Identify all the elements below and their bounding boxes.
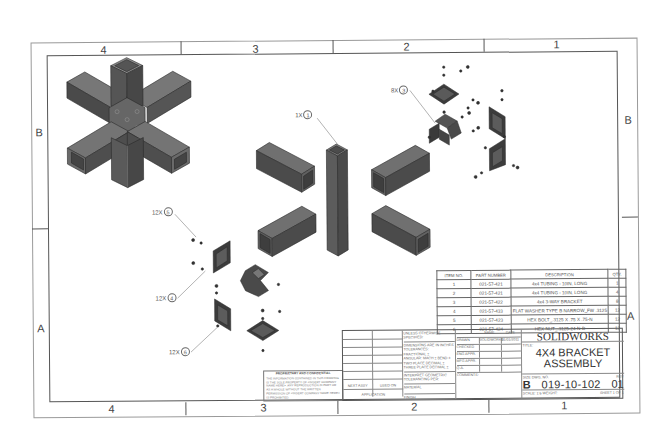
- bom-item-no: 5: [437, 315, 471, 324]
- proprietary-notice: PROPRIETARY AND CONFIDENTIAL THE INFORMA…: [263, 370, 343, 402]
- tb-title-cell: TITLE: 4X4 BRACKET ASSEMBLY: [522, 342, 624, 375]
- bom-item-no: 2: [437, 288, 471, 297]
- tb-qa-label: Q.A.: [457, 365, 479, 371]
- tb-empty: [478, 344, 500, 350]
- drawing-number: 019-10-102: [541, 379, 600, 389]
- tb-comments-label: COMMENTS:: [457, 371, 521, 377]
- bom-part-number: 021-57-433: [471, 306, 511, 315]
- bom-qty: 8: [608, 296, 626, 305]
- bom-qty: 1: [608, 278, 626, 287]
- tb-dwg-cell: SIZE DWG. NO. REV B 019-10-102 01: [522, 374, 624, 391]
- drawing-sheet: 4 3 2 1 4 3 2 1 B A B A: [0, 0, 671, 441]
- bill-of-materials: ITEM NO. PART NUMBER DESCRIPTION QTY. 10…: [436, 269, 627, 334]
- callout-item-1[interactable]: 1X1: [295, 110, 312, 119]
- tb-empty: [479, 358, 501, 364]
- drawing-title-line2: ASSEMBLY: [523, 358, 624, 370]
- bom-item-no: 3: [437, 297, 471, 306]
- revision: 01: [611, 379, 623, 389]
- bom-part-number: 021-57-421: [471, 279, 511, 288]
- bom-header-part: PART NUMBER: [471, 270, 511, 279]
- bom-part-number: 021-57-421: [471, 288, 511, 297]
- tb-sheet: SHEET 1 OF 1: [600, 390, 624, 397]
- tb-drawn-name: SOLIDWORKS: [478, 337, 500, 343]
- proprietary-text: THE INFORMATION CONTAINED IN THIS DRAWIN…: [266, 377, 340, 400]
- tb-application-label: APPLICATION: [343, 388, 403, 399]
- tb-ang-label: ANGULAR: MACH ± BEND ±: [404, 356, 455, 361]
- tb-tolerances: UNLESS OTHERWISE SPECIFIED: DIMENSIONS A…: [403, 330, 457, 399]
- tb-signoff: NAME DATE DRAWN SOLIDWORKS 01/01/2011 CH…: [456, 330, 523, 400]
- bom-item-no: 1: [437, 279, 471, 288]
- exploded-tubes: [256, 141, 430, 256]
- tb-interpret-label: INTERPRET GEOMETRIC TOLERANCING PER:: [404, 373, 455, 382]
- tb-checked-row: CHECKED: [456, 343, 520, 351]
- tb-empty: [500, 344, 520, 350]
- title-block: NEXT ASSY USED ON APPLICATION UNLESS OTH…: [342, 328, 624, 401]
- tb-checked-label: CHECKED: [456, 344, 478, 350]
- tb-scale: SCALE: 1:6: [523, 391, 542, 395]
- tb-empty: [501, 365, 521, 371]
- tb-empty: [500, 351, 520, 357]
- bom-part-number: 021-57-422: [471, 297, 511, 306]
- tb-mfg-label: MFG APPR.: [457, 358, 479, 364]
- tb-spacer: [456, 330, 478, 336]
- callout-item-3[interactable]: 8X3: [391, 85, 408, 94]
- tb-qa-row: Q.A.: [457, 364, 521, 372]
- bom-qty: 12: [608, 305, 626, 314]
- tb-finish-label: FINISH: [404, 395, 455, 399]
- tb-unless-label: UNLESS OTHERWISE SPECIFIED:: [403, 331, 454, 340]
- tb-weight: WEIGHT:: [543, 391, 558, 395]
- bom-item-no: 4: [437, 306, 471, 315]
- tb-eng-row: ENG APPR.: [456, 350, 520, 358]
- tb-drawn-date: 01/01/2011: [500, 337, 520, 343]
- balloon-item-3: 3: [399, 85, 408, 94]
- bom-header-item: ITEM NO.: [437, 270, 471, 279]
- sheet-size: B: [523, 379, 531, 389]
- tb-drawn-label: DRAWN: [456, 337, 478, 343]
- bom-header-qty: QTY.: [608, 269, 626, 278]
- tb-drawn-row: DRAWN SOLIDWORKS 01/01/2011: [456, 336, 520, 344]
- tb-empty: [478, 351, 500, 357]
- tb-dwg-values: B 019-10-102 01: [523, 379, 624, 390]
- tb-eng-label: ENG APPR.: [456, 351, 478, 357]
- tb-empty: [479, 365, 501, 371]
- exploded-hardware-right: [428, 65, 520, 179]
- balloon-item-4: 4: [167, 293, 176, 302]
- tb-date-col: DATE: [500, 330, 520, 336]
- callout-item-5[interactable]: 12X5: [152, 207, 173, 216]
- assembled-view: [67, 57, 192, 188]
- bom-qty: 4: [608, 287, 626, 296]
- tb-empty: [501, 358, 521, 364]
- bom-qty: 12: [608, 314, 626, 323]
- company-name: SOLIDWORKS CORP.: [522, 329, 624, 343]
- exploded-hardware-left: [192, 238, 282, 352]
- tb-scale-row: SCALE: 1:6 WEIGHT: SHEET 1 OF 1: [522, 390, 624, 399]
- callout-item-6[interactable]: 12X6: [169, 347, 190, 356]
- balloon-item-1: 1: [303, 110, 312, 119]
- tb-three-label: THREE PLACE DECIMAL ±: [404, 365, 455, 370]
- tb-material-label: MATERIAL: [404, 385, 455, 390]
- callout-item-4[interactable]: 12X4: [156, 293, 177, 302]
- tb-name-col: NAME: [478, 330, 500, 336]
- bom-part-number: 021-57-423: [471, 315, 511, 324]
- tb-signoff-header: NAME DATE: [456, 330, 520, 337]
- tb-mfg-row: MFG APPR.: [457, 357, 521, 365]
- balloon-item-6: 6: [181, 347, 190, 356]
- balloon-item-5: 5: [164, 207, 173, 216]
